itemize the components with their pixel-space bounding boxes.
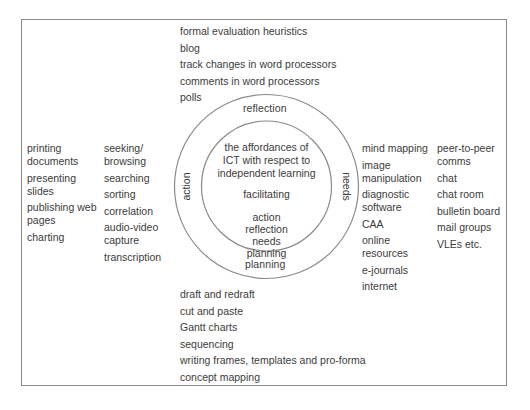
list-item: e-journals [362,264,428,277]
top-list: formal evaluation heuristics blog track … [180,25,336,108]
list-item: internet [362,280,428,293]
list-item: searching [104,172,161,185]
list-item: formal evaluation heuristics [180,25,336,42]
list-item: audio-videocapture [104,221,161,247]
list-item: onlineresources [362,234,428,260]
list-item: imagemanipulation [362,159,428,185]
list-item: bulletin board [437,205,500,218]
ring-label-right: needs [340,171,353,203]
inner-title-line: the affordances of [206,141,327,154]
bottom-list: draft and redraft cut and paste Gantt ch… [180,288,366,387]
list-item: correlation [104,205,161,218]
inner-title-line: independent learning [206,167,327,180]
list-item: track changes in word processors [180,58,336,75]
list-item: sequencing [180,338,366,355]
ring-label-left: action [180,171,193,203]
list-item: presentingslides [27,172,96,198]
list-item: comments in word processors [180,75,336,92]
inner-stage: action [206,211,327,223]
list-item: mind mapping [362,142,428,155]
inner-title-line: ICT with respect to [206,154,327,167]
list-item: draft and redraft [180,288,366,305]
inner-circle-content: the affordances of ICT with respect to i… [206,141,327,259]
inner-stage: reflection [206,223,327,235]
ring-label-bottom: planning [245,258,286,271]
list-item: Gantt charts [180,321,366,338]
list-item: publishing webpages [27,201,96,227]
list-item: blog [180,42,336,59]
list-item: transcription [104,251,161,264]
list-item: charting [27,231,96,244]
left-inner-column: seeking/browsing searching sorting corre… [104,142,161,267]
list-item: printingdocuments [27,142,96,168]
right-outer-column: peer-to-peercomms chat chat room bulleti… [437,142,500,254]
inner-stage: needs [206,235,327,247]
list-item: seeking/browsing [104,142,161,168]
right-inner-column: mind mapping imagemanipulation diagnosti… [362,142,428,297]
list-item: VLEs etc. [437,238,500,251]
list-item: diagnosticsoftware [362,188,428,214]
list-item: mail groups [437,221,500,234]
list-item: chat room [437,188,500,201]
list-item: sorting [104,188,161,201]
inner-stage: planning [206,247,327,259]
left-outer-column: printingdocuments presentingslides publi… [27,142,96,247]
inner-subtitle: facilitating [206,188,327,201]
ring-label-top: reflection [243,102,287,115]
list-item: chat [437,172,500,185]
list-item: cut and paste [180,305,366,322]
list-item: CAA [362,218,428,231]
list-item: concept mapping [180,371,366,388]
list-item: peer-to-peercomms [437,142,500,168]
list-item: writing frames, templates and pro-forma [180,354,366,371]
